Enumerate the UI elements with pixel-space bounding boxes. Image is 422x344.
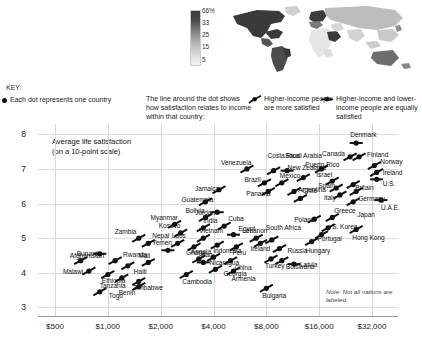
point-label: Jordan xyxy=(195,210,215,217)
point-label: Cuba xyxy=(228,216,244,223)
point-label: Panama xyxy=(246,191,270,198)
point-label: Turkey xyxy=(265,263,285,270)
point-label: Guatemala xyxy=(181,197,213,204)
point-label: Burundi xyxy=(77,251,99,258)
point-label: Russia xyxy=(287,248,307,255)
point-label: Saudi Arabia xyxy=(285,153,322,160)
point-label: Cambodia xyxy=(182,279,212,286)
point-label: Chile xyxy=(302,188,317,195)
data-point[interactable] xyxy=(121,262,134,269)
point-label: Armenia xyxy=(232,276,256,283)
world-map-block: 66% 33 25 15 5 xyxy=(185,2,417,74)
data-point[interactable] xyxy=(267,167,280,174)
x-axis-line xyxy=(38,316,398,317)
key-equally-entry: Higher-income and lower-income people ar… xyxy=(336,95,422,122)
color-scale-bar xyxy=(190,10,201,66)
point-label: Zimbabwe xyxy=(133,285,163,292)
y-tick-label: 5 xyxy=(0,233,26,243)
dot-icon xyxy=(2,98,7,103)
key-dot-entry: Each dot represents one country xyxy=(10,96,120,105)
point-label: Israel xyxy=(316,172,332,179)
data-point[interactable] xyxy=(260,285,273,292)
point-label: Venezuela xyxy=(221,160,251,167)
point-label: Portugal xyxy=(318,236,342,243)
point-label: Poland xyxy=(294,217,314,224)
data-point[interactable] xyxy=(171,240,184,247)
point-label: Iraq xyxy=(201,252,212,259)
point-label: Latvia xyxy=(300,262,317,269)
scale-tick-2: 25 xyxy=(202,32,209,39)
data-point[interactable] xyxy=(350,140,363,145)
point-label: Nepal xyxy=(152,233,169,240)
data-point[interactable] xyxy=(370,169,383,176)
data-point[interactable] xyxy=(197,235,210,242)
upward-slope-dot-icon xyxy=(248,95,262,104)
key-equally-text: Higher-income and lower-income people ar… xyxy=(336,95,418,120)
point-label: Myanmar xyxy=(151,215,178,222)
point-label: Hungary xyxy=(306,248,331,255)
point-label: Ethiopia xyxy=(102,278,125,285)
point-label: Norway xyxy=(380,159,402,166)
y-tick-label: 7 xyxy=(0,164,26,174)
scale-tick-4: 5 xyxy=(202,57,206,64)
data-point[interactable] xyxy=(250,235,263,242)
data-point[interactable] xyxy=(273,245,286,252)
map-color-scale: 66% 33 25 15 5 xyxy=(185,8,229,68)
point-label: South Africa xyxy=(266,225,301,232)
y-tick-label: 8 xyxy=(0,129,26,139)
chart-note: Note: Not all nations are labeled. xyxy=(326,288,412,305)
world-map-icon xyxy=(227,2,417,74)
point-label: Rwanda xyxy=(123,252,147,259)
data-point[interactable] xyxy=(82,267,95,274)
point-label: Bulgaria xyxy=(262,293,286,300)
scale-tick-3: 15 xyxy=(202,44,209,51)
point-label: Lebanon xyxy=(242,228,267,235)
point-label: Mexico xyxy=(280,173,301,180)
scale-tick-1: 33 xyxy=(202,20,209,27)
point-label: Zambia xyxy=(115,229,137,236)
point-label: Ireland xyxy=(383,170,403,177)
point-label: Greece xyxy=(334,208,355,215)
point-label: Canada xyxy=(322,151,345,158)
data-point[interactable] xyxy=(227,232,240,237)
y-tick-label: 4 xyxy=(0,268,26,278)
point-label: India xyxy=(203,218,217,225)
data-point[interactable] xyxy=(275,179,288,186)
point-label: Italy xyxy=(324,195,336,202)
point-label: Brazil xyxy=(244,177,260,184)
data-point[interactable] xyxy=(294,195,307,202)
data-point[interactable] xyxy=(161,248,174,253)
scale-tick-0: 66% xyxy=(202,8,215,15)
key-line-entry: The line around the dot shows how satisf… xyxy=(146,95,254,122)
data-point[interactable] xyxy=(370,177,383,182)
flat-slope-dot-icon xyxy=(320,95,334,104)
data-point[interactable] xyxy=(265,236,278,243)
data-point[interactable] xyxy=(368,162,381,169)
key-line-text: The line around the dot shows how satisf… xyxy=(146,95,251,120)
point-label: Haiti xyxy=(134,269,147,276)
data-point[interactable] xyxy=(180,271,193,278)
point-label: Britain xyxy=(355,185,373,192)
point-label: China xyxy=(235,265,252,272)
point-label: Jamaica xyxy=(195,186,219,193)
point-label: Togo xyxy=(109,293,123,300)
point-label: Germany xyxy=(358,196,385,203)
data-point[interactable] xyxy=(305,238,318,245)
point-label: Yemen xyxy=(152,240,172,247)
point-label: Ireland xyxy=(250,246,270,253)
point-label: Denmark xyxy=(350,132,376,139)
point-label: Japan xyxy=(357,212,375,219)
point-label: Laos xyxy=(172,233,186,240)
point-label: S. Korea xyxy=(332,224,357,231)
point-label: Spain xyxy=(318,183,335,190)
key-title: KEY: xyxy=(6,84,22,91)
point-label: U.S. xyxy=(383,181,396,188)
point-label: Kosovo xyxy=(159,223,181,230)
x-tick-label: $32,000 xyxy=(337,322,407,331)
point-label: Hong Kong xyxy=(352,235,385,242)
point-label: Peru xyxy=(232,250,246,257)
key-dot-text: Each dot represents one country xyxy=(10,96,111,103)
data-point[interactable] xyxy=(109,257,122,264)
y-tick-label: 6 xyxy=(0,199,26,209)
